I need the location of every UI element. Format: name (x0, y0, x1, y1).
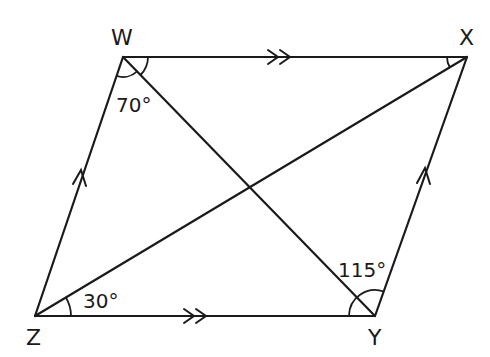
vertex-label-x: X (459, 25, 474, 50)
vertex-label-z: Z (26, 325, 41, 350)
angle-arc-z-30 (66, 298, 71, 317)
diagonal-zx (35, 57, 467, 316)
angle-arc-x-marked (447, 57, 450, 67)
angle-label-w: 70° (116, 93, 151, 117)
diagram-svg: W X Y Z 70° 30° 115° (0, 0, 490, 357)
vertex-label-w: W (111, 25, 133, 50)
angle-arc-w-70 (117, 71, 137, 77)
angle-label-z: 30° (83, 289, 118, 313)
parallelogram-diagram: W X Y Z 70° 30° 115° (0, 0, 490, 357)
vertex-label-y: Y (367, 325, 382, 350)
side-yx (375, 57, 467, 316)
side-zw (35, 57, 123, 316)
angle-label-y: 115° (338, 258, 386, 282)
angle-arc-w-marked (140, 57, 148, 75)
